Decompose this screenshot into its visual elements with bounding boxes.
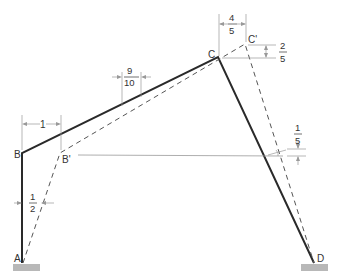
reference-line	[78, 155, 283, 156]
dim-cc-v-num: 2	[280, 40, 285, 51]
dim-cc-h-num: 4	[229, 12, 234, 23]
support-d	[301, 264, 328, 271]
dim-a-num: 1	[30, 191, 35, 202]
dim-cc-h-den: 5	[229, 25, 234, 36]
dim-bc-num: 9	[127, 65, 132, 76]
dim-d-den: 5	[295, 135, 300, 146]
label-b: B	[14, 149, 21, 160]
label-d: D	[317, 253, 324, 264]
support-a	[13, 264, 40, 271]
dim-bb-label: 1	[40, 119, 46, 130]
dim-a-den: 2	[30, 203, 35, 214]
dim-cc-v-den: 5	[280, 53, 285, 64]
frame-diagram: 1 1 2 9 10 4 5 2 5 1 5 B B' C C' A D	[0, 0, 343, 275]
label-c: C	[208, 49, 215, 60]
label-a: A	[14, 253, 21, 264]
label-c-prime: C'	[248, 34, 257, 45]
dim-bc-den: 10	[124, 77, 135, 88]
dim-d-num: 1	[295, 122, 300, 133]
label-b-prime: B'	[62, 154, 71, 165]
